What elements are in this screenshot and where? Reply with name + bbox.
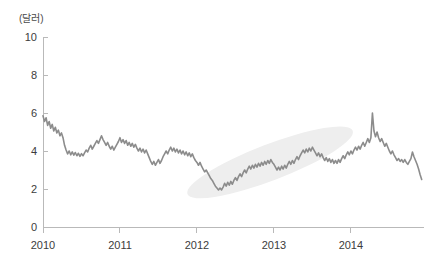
x-tick-label: 2014 — [339, 239, 363, 251]
x-tick-group: 20102011201220132014 — [31, 227, 363, 251]
x-tick-label: 2010 — [31, 239, 55, 251]
x-tick-label: 2011 — [108, 239, 132, 251]
y-tick-label: 8 — [31, 69, 37, 81]
y-tick-label: 10 — [25, 31, 37, 43]
x-tick-label: 2012 — [185, 239, 209, 251]
y-axis: 1086420 — [25, 31, 48, 233]
y-tick-label: 2 — [31, 183, 37, 195]
x-tick-label: 2013 — [262, 239, 286, 251]
y-tick-label: 4 — [31, 145, 37, 157]
y-tick-label: 0 — [31, 221, 37, 233]
y-tick-label: 6 — [31, 107, 37, 119]
x-axis: 20102011201220132014 — [31, 227, 424, 251]
y-tick-group: 1086420 — [25, 31, 48, 233]
line-chart: 1086420 20102011201220132014 (달러) — [0, 0, 432, 270]
chart-container: 1086420 20102011201220132014 (달러) — [0, 0, 432, 270]
y-axis-unit-label: (달러) — [19, 13, 44, 24]
